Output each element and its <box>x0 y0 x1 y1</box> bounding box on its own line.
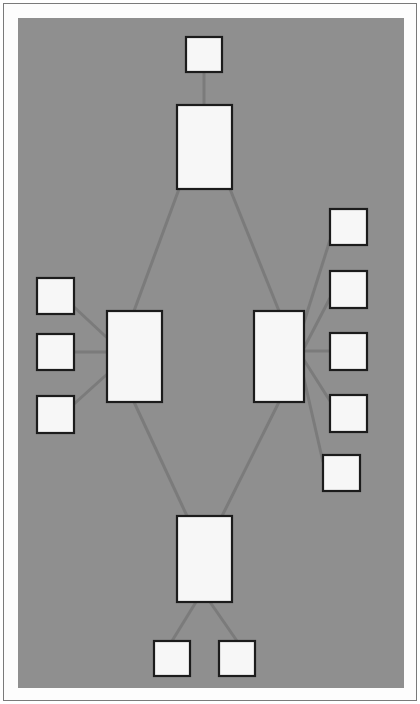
computer-node-bottom-hub[interactable] <box>177 516 232 602</box>
page-frame: NOTE: Each rectangle represents a comput… <box>3 3 417 701</box>
computer-node-bottom-leaf-1[interactable] <box>154 641 190 676</box>
computer-node-top-hub[interactable] <box>177 105 232 189</box>
computer-nodes-layer <box>37 37 367 676</box>
computer-node-right-leaf-2[interactable] <box>330 271 367 308</box>
computer-node-bottom-leaf-2[interactable] <box>219 641 255 676</box>
connection-line-top-hub-to-right-hub <box>230 189 279 311</box>
computer-node-left-leaf-2[interactable] <box>37 334 74 370</box>
computer-node-left-leaf-1[interactable] <box>37 278 74 314</box>
computer-node-right-leaf-5[interactable] <box>323 455 360 491</box>
computer-node-left-hub[interactable] <box>107 311 162 402</box>
connection-line-bottom-hub-to-bottom-leaf-2 <box>210 602 237 641</box>
diagram-canvas: NOTE: Each rectangle represents a comput… <box>18 18 404 688</box>
network-diagram <box>18 18 404 688</box>
connection-line-top-hub-to-left-hub <box>134 189 179 311</box>
computer-node-right-leaf-3[interactable] <box>330 333 367 370</box>
computer-node-top-leaf[interactable] <box>186 37 222 72</box>
connection-line-bottom-hub-to-bottom-leaf-1 <box>172 602 196 641</box>
computer-node-left-leaf-3[interactable] <box>37 396 74 433</box>
connection-line-right-hub-to-bottom-hub <box>222 402 279 516</box>
computer-node-right-hub[interactable] <box>254 311 304 402</box>
computer-node-right-leaf-1[interactable] <box>330 209 367 245</box>
computer-node-right-leaf-4[interactable] <box>330 395 367 432</box>
connection-line-left-hub-to-bottom-hub <box>134 402 187 516</box>
